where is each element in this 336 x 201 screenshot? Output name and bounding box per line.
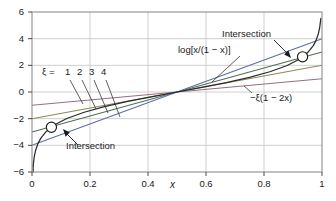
x-tick-label-0: 0	[17, 178, 47, 189]
xi-family-prefix: ξ =	[42, 66, 54, 77]
intersection-lower-marker	[46, 122, 56, 132]
y-tick-label-6: 6	[2, 6, 24, 17]
series-label-lines: −ξ(1 − 2x)	[250, 92, 292, 103]
y-tick-label-neg6: −6	[2, 166, 24, 177]
xi-value-4: 4	[101, 66, 106, 77]
intersection-upper-marker	[297, 52, 307, 62]
x-tick-label-0p6: 0.6	[191, 178, 221, 189]
y-tick-label-2: 2	[2, 59, 24, 70]
x-axis-ticks	[32, 172, 322, 176]
x-tick-label-0p4: 0.4	[133, 178, 163, 189]
xi-value-1: 1	[65, 66, 70, 77]
y-tick-label-neg2: −2	[2, 113, 24, 124]
y-tick-label-4: 4	[2, 33, 24, 44]
y-tick-label-neg4: −4	[2, 139, 24, 150]
intersection-lower-label: Intersection	[66, 140, 115, 151]
x-tick-label-1: 1	[307, 178, 336, 189]
series-label-logit: log[x/(1 − x)]	[178, 44, 231, 55]
x-axis-label: x	[170, 179, 175, 190]
x-tick-label-0p2: 0.2	[75, 178, 105, 189]
y-tick-label-0: 0	[2, 86, 24, 97]
x-tick-label-0p8: 0.8	[249, 178, 279, 189]
y-axis-ticks	[28, 12, 32, 172]
xi-value-3: 3	[89, 66, 94, 77]
xi-value-2: 2	[77, 66, 82, 77]
intersection-upper-label: Intersection	[222, 28, 271, 39]
figure-plot-root: 6 4 2 0 −2 −4 −6 0 0.2 0.4 0.6 0.8 1 x ξ…	[0, 0, 336, 201]
